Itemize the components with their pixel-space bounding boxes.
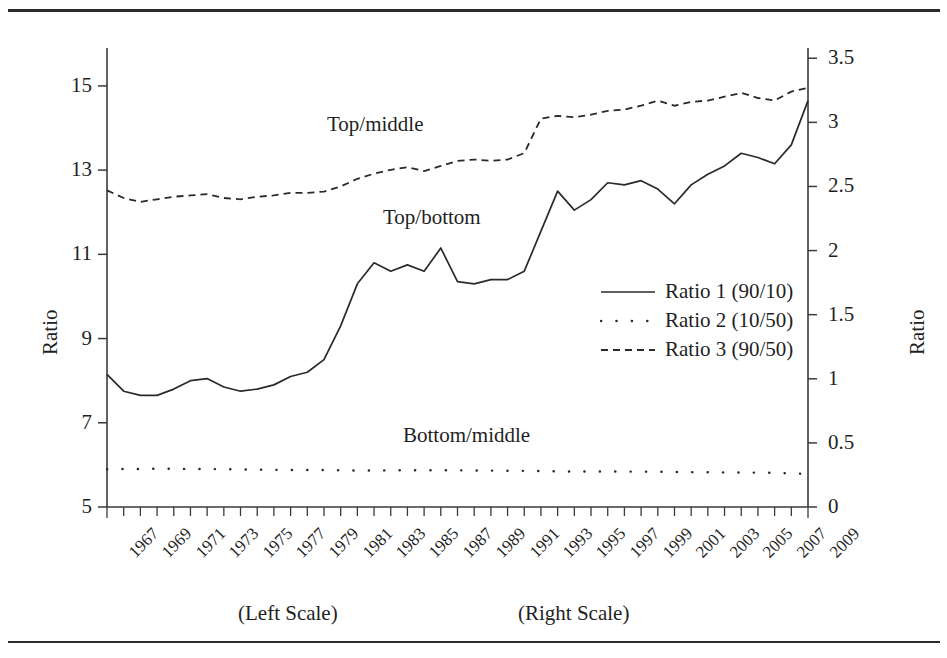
y-axis-right-tick-label-0: 0 <box>828 494 888 519</box>
y-axis-left-tick-label-5: 15 <box>40 73 92 98</box>
annotation-bottom-middle: Bottom/middle <box>403 423 530 448</box>
y-axis-right-tick-label-4: 2 <box>828 238 888 263</box>
y-axis-left-tick-label-3: 11 <box>40 241 92 266</box>
legend-item-1[interactable]: Ratio 1 (90/10) <box>600 277 815 306</box>
y-axis-right-tick-label-6: 3 <box>828 109 888 134</box>
y-axis-left-tick-label-4: 13 <box>40 157 92 182</box>
y-axis-left-tick-label-1: 7 <box>40 410 92 435</box>
y-axis-left-tick-label-0: 5 <box>40 494 92 519</box>
legend-label-1: Ratio 1 (90/10) <box>665 279 793 304</box>
chart-legend: Ratio 1 (90/10)Ratio 2 (10/50)Ratio 3 (9… <box>600 277 815 364</box>
y-axis-right-title: Ratio <box>905 310 930 356</box>
legend-key-dotted <box>600 314 656 328</box>
left-scale-note: (Left Scale) <box>238 601 338 626</box>
legend-label-2: Ratio 2 (10/50) <box>665 308 793 333</box>
y-axis-right-tick-label-2: 1 <box>828 366 888 391</box>
y-axis-right-tick-label-3: 1.5 <box>828 302 888 327</box>
series-line-3 <box>107 88 808 202</box>
y-axis-right-tick-label-7: 3.5 <box>828 45 888 70</box>
legend-item-2[interactable]: Ratio 2 (10/50) <box>600 306 815 335</box>
legend-label-3: Ratio 3 (90/50) <box>665 337 793 362</box>
figure-panel: 579111315 00.511.522.533.5 1967196919711… <box>0 0 947 658</box>
annotation-top-bottom: Top/bottom <box>383 205 481 230</box>
series-line-2 <box>107 469 808 474</box>
right-scale-note: (Right Scale) <box>518 601 629 626</box>
y-axis-right-tick-label-5: 2.5 <box>828 173 888 198</box>
legend-item-3[interactable]: Ratio 3 (90/50) <box>600 335 815 364</box>
annotation-top-middle: Top/middle <box>327 112 424 137</box>
y-axis-right-tick-label-1: 0.5 <box>828 430 888 455</box>
legend-key-solid <box>600 285 656 299</box>
legend-key-dashed <box>600 343 656 357</box>
y-axis-left-title: Ratio <box>38 310 63 356</box>
